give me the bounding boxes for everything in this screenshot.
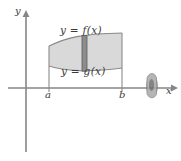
y-axis [23,10,30,152]
artifact-core [149,79,154,91]
solid-of-revolution-artifact [147,74,158,98]
label-y-axis: y [15,6,21,16]
label-right-bound-b: b [119,90,125,100]
x-axis-arrowhead [171,84,178,91]
y-axis-arrowhead [23,10,30,17]
label-lower-curve: y = g(x) [61,66,106,77]
label-left-bound-a: a [45,90,51,100]
label-upper-curve: y = f(x) [60,25,102,36]
label-x-axis: x [166,86,172,96]
figure-region-between-curves: y = f(x) y = g(x) a b x y [0,0,181,161]
